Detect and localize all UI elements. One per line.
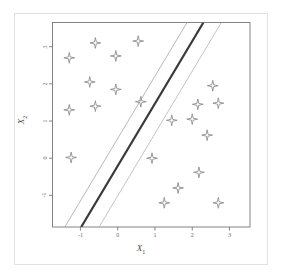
x-axis-title: X1	[137, 243, 146, 255]
y-tick-label: 2	[41, 82, 47, 85]
y-tick-label: 0	[41, 157, 47, 160]
plot-layer	[49, 23, 250, 231]
y-tick-label: -1	[40, 193, 46, 198]
x-axis-title-sub: 1	[142, 249, 145, 255]
x-tick-label: 2	[191, 232, 194, 238]
x-tick-label: -1	[78, 232, 83, 238]
figure-container: -10123-10123 X1 X2	[0, 0, 282, 277]
y-axis-title: X2	[16, 116, 28, 125]
y-tick-label: 3	[41, 45, 47, 48]
x-tick-label: 0	[116, 232, 119, 238]
plot-frame	[53, 23, 251, 228]
x-tick-label: 1	[153, 232, 156, 238]
y-axis-title-sub: 2	[22, 116, 28, 119]
y-tick-label: 1	[41, 120, 47, 123]
y-axis-title-text: X	[16, 119, 26, 125]
scatter-plot-svg	[0, 0, 282, 277]
x-tick-label: 3	[228, 232, 231, 238]
